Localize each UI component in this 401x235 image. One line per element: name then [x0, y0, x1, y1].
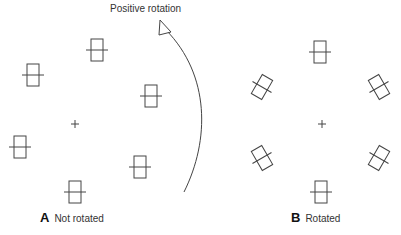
panel-b-caption: Rotated [305, 213, 340, 224]
rectangle-element [129, 156, 151, 178]
rectangle-element [364, 72, 394, 102]
panel-b-letter: B [291, 210, 300, 225]
panel-a-label: ANot rotated [40, 210, 104, 225]
rectangle-element [140, 85, 162, 107]
rectangle-element [22, 64, 44, 86]
rectangle-element [364, 143, 394, 173]
panel-a-letter: A [40, 210, 49, 225]
rectangle-element [64, 181, 86, 203]
rectangle-element [310, 181, 332, 203]
rectangle-element [309, 41, 331, 63]
rectangle-element [247, 72, 277, 102]
center-cross-icon [318, 120, 326, 128]
rectangle-element [9, 136, 31, 158]
panel-b-elements [247, 41, 394, 203]
rectangle-element [86, 39, 108, 61]
rotation-arc [166, 30, 202, 192]
arrow-label: Positive rotation [110, 3, 181, 14]
panel-a-elements [9, 39, 162, 203]
arrowhead-icon [159, 20, 171, 35]
center-cross-icon [71, 120, 79, 128]
rectangle-element [247, 143, 277, 173]
rotation-diagram [0, 0, 401, 235]
panel-b-label: BRotated [291, 210, 340, 225]
panel-a-caption: Not rotated [54, 213, 103, 224]
